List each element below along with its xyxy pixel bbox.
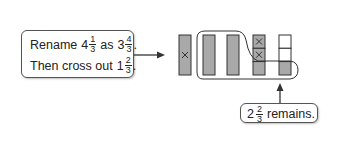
fraction: 2 3 <box>256 105 263 124</box>
bar-2 <box>203 35 215 75</box>
numerator: 2 <box>256 105 263 115</box>
up-arrow-icon <box>277 83 284 104</box>
denominator: 3 <box>257 115 262 124</box>
right-arrow-icon <box>134 52 165 59</box>
whole-number: 2 <box>247 107 254 121</box>
result-callout: 2 2 3 remains. <box>240 103 318 123</box>
bar-4 <box>253 35 265 75</box>
bar-5 <box>279 35 291 75</box>
text: remains. <box>267 107 315 121</box>
bar-3 <box>227 35 239 75</box>
result-line: 2 2 3 remains. <box>247 104 315 124</box>
bar-1 <box>179 35 191 75</box>
fraction-bars-diagram <box>0 0 344 150</box>
